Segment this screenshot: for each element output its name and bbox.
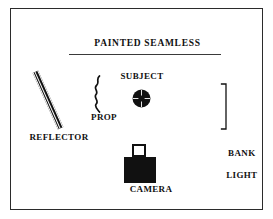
subject-crosshair-circle-icon [132,89,151,108]
prop-squiggle-icon [90,75,104,113]
bank-light-bracket-icon [220,83,230,130]
diagram-frame: PAINTED SEAMLESS REFLECTOR PROP SUBJECT [10,8,263,210]
camera-lens-icon [132,144,146,157]
reflector-bar-icon [33,70,64,129]
reflector-label: REFLECTOR [19,133,99,142]
bank-light-svg [220,83,230,130]
reflector-bar-highlight [35,71,61,128]
bank-light-label-line2: LIGHT [226,170,257,180]
subject-circle-svg [132,89,151,108]
studio-lighting-diagram: PAINTED SEAMLESS REFLECTOR PROP SUBJECT [0,0,273,219]
bank-light-label: BANK LIGHT [207,137,261,192]
prop-label: PROP [81,113,127,122]
camera-label: CAMERA [111,185,191,194]
camera-icon [124,144,156,183]
subject-label: SUBJECT [107,72,177,81]
painted-seamless-line-icon [69,54,221,55]
camera-body-icon [124,157,156,183]
painted-seamless-label: PAINTED SEAMLESS [11,39,273,49]
bank-light-label-line1: BANK [228,148,255,158]
prop-squiggle-svg [90,75,104,113]
